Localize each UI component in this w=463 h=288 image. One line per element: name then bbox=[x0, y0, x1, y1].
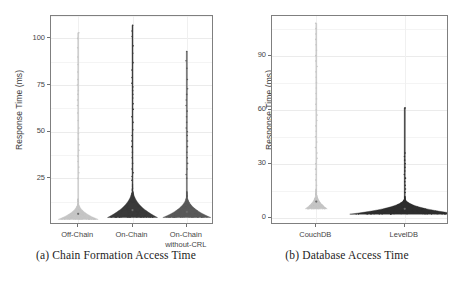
figure-container: Response Time (ms) 255075100 Off-ChainOn… bbox=[0, 0, 463, 288]
y-axis-tick-label: 100 bbox=[25, 33, 45, 42]
x-axis-tick bbox=[315, 224, 316, 227]
y-axis-tick bbox=[268, 163, 271, 164]
y-axis-tick-label: 30 bbox=[246, 158, 266, 167]
y-axis-tick-label: 25 bbox=[25, 173, 45, 182]
x-axis-tick bbox=[186, 224, 187, 227]
caption-panel-b: (b) Database Access Time bbox=[231, 249, 463, 261]
y-axis-title-panel-a: Response Time (ms) bbox=[14, 65, 24, 155]
x-axis-tick-label: LevelDB bbox=[368, 230, 440, 240]
plot-area-panel-b bbox=[271, 15, 448, 224]
y-axis-tick bbox=[47, 37, 50, 38]
panel-database-access: Response Time (ms) 0306090 CouchDBLevelD… bbox=[231, 0, 463, 288]
y-axis-tick-label: 60 bbox=[246, 104, 266, 113]
x-axis-tick bbox=[132, 224, 133, 227]
y-axis-tick bbox=[47, 177, 50, 178]
x-axis-tick-label: On-Chain without-CRL bbox=[150, 230, 222, 249]
y-axis-tick-label: 90 bbox=[246, 50, 266, 59]
y-axis-tick-label: 50 bbox=[25, 126, 45, 135]
y-axis-tick bbox=[47, 84, 50, 85]
y-axis-tick bbox=[268, 55, 271, 56]
y-axis-tick bbox=[47, 131, 50, 132]
plot-area-panel-a bbox=[50, 15, 213, 224]
panel-chain-formation: Response Time (ms) 255075100 Off-ChainOn… bbox=[0, 0, 232, 288]
x-axis-tick bbox=[77, 224, 78, 227]
y-axis-tick-label: 75 bbox=[25, 80, 45, 89]
x-axis-tick-label: CouchDB bbox=[279, 230, 351, 240]
x-axis-tick bbox=[404, 224, 405, 227]
y-axis-tick bbox=[268, 109, 271, 110]
y-axis-tick bbox=[268, 217, 271, 218]
caption-panel-a: (a) Chain Formation Access Time bbox=[0, 249, 232, 261]
y-axis-tick-label: 0 bbox=[246, 212, 266, 221]
